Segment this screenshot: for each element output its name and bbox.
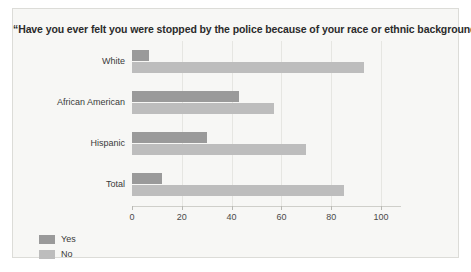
- bar-group: Hispanic: [132, 124, 401, 165]
- bar-no: [132, 103, 274, 114]
- legend-swatch-yes: [39, 235, 55, 244]
- tick-mark-20: [182, 206, 183, 210]
- bar-no: [132, 144, 306, 155]
- bar-yes: [132, 91, 239, 102]
- x-axis-line: [132, 206, 401, 207]
- tick-mark-40: [232, 206, 233, 210]
- x-tick-label-0: 0: [129, 212, 134, 222]
- bar-yes: [132, 132, 207, 143]
- chart-title: “Have you ever felt you were stopped by …: [13, 23, 458, 35]
- legend-swatch-no: [39, 250, 55, 259]
- x-tick-label-40: 40: [227, 212, 237, 222]
- bar-group: African American: [132, 82, 401, 123]
- bar-no: [132, 185, 344, 196]
- legend-item-yes: Yes: [39, 233, 76, 246]
- bar-group: White: [132, 41, 401, 82]
- tick-mark-80: [331, 206, 332, 210]
- bar-group: Total: [132, 165, 401, 206]
- category-label: White: [102, 56, 125, 66]
- chart-frame: “Have you ever felt you were stopped by …: [12, 8, 459, 258]
- category-label: African American: [57, 97, 125, 107]
- legend-item-no: No: [39, 248, 76, 261]
- category-label: Total: [106, 179, 125, 189]
- tick-mark-100: [381, 206, 382, 210]
- category-label: Hispanic: [90, 138, 125, 148]
- tick-mark-0: [132, 206, 133, 210]
- legend-label-no: No: [61, 250, 73, 259]
- legend: Yes No: [39, 233, 76, 263]
- bar-no: [132, 62, 364, 73]
- bar-yes: [132, 50, 149, 61]
- x-tick-label-80: 80: [326, 212, 336, 222]
- tick-mark-60: [281, 206, 282, 210]
- x-tick-label-100: 100: [374, 212, 389, 222]
- x-tick-label-60: 60: [276, 212, 286, 222]
- plot-area: 020406080100 WhiteAfrican AmericanHispan…: [132, 41, 401, 206]
- x-tick-label-20: 20: [177, 212, 187, 222]
- bar-yes: [132, 173, 162, 184]
- legend-label-yes: Yes: [61, 235, 76, 244]
